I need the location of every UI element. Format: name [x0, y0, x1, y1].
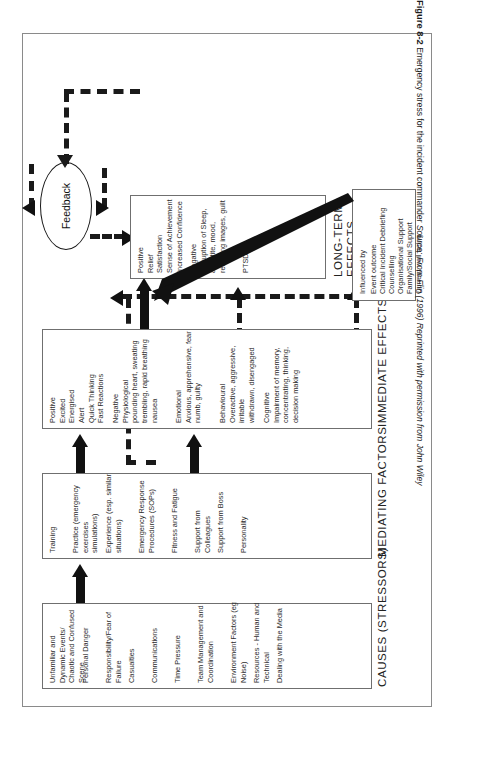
causes-item: Time Pressure: [173, 605, 183, 683]
causes-item: Casualties: [127, 605, 137, 683]
immediate-item: Behavioural Overactive, aggressive, irri…: [218, 327, 257, 423]
feedback-arrowhead-into-ellipse: [57, 155, 73, 168]
figure-caption-text: Emergency stress for the incident comman…: [415, 47, 425, 222]
mediating-item: Training: [48, 473, 58, 553]
immediate-item: Cognitive Impairment of memory, concentr…: [262, 329, 301, 423]
arrow-influenced-to-longterm: [152, 185, 362, 305]
mediating-item: Support from Boss: [216, 473, 226, 553]
mediating-item: Support from Colleagues: [193, 473, 212, 553]
mediating-item: Fitness and Fatigue: [170, 473, 180, 553]
causes-item: Environment Factors (eg Noise): [229, 601, 248, 683]
causes-item: Personal Danger: [81, 605, 91, 683]
causes-item: Dealing with the Media: [275, 601, 285, 683]
feedback-arrowhead-top: [22, 200, 35, 216]
immediate-item: Positive Excited Energised Alert Quick T…: [48, 329, 106, 423]
figure-canvas: Feedback CAUSES (STRESSORS) Unfamiliar a…: [22, 33, 430, 705]
feedback-line-right: [64, 92, 69, 164]
causes-item: Responsibility/Fear of Failure: [104, 605, 123, 683]
mediating-item: Personality: [239, 473, 249, 553]
causes-item: Team Management and Coordination: [196, 605, 215, 683]
stage-box-mediating: Training Practice (emergency exercises s…: [42, 473, 372, 559]
stage-box-causes: Unfamiliar and Dynamic Events/ Chaotic a…: [42, 603, 372, 689]
feedback-branch-longterm-stub: [126, 460, 156, 465]
mediating-item: Experience (esp. similar situations): [104, 473, 123, 553]
immediate-item: Emotional Anxious, apprehensive, fear nu…: [174, 329, 203, 423]
figure-source: Source: From Flin (1996) Reprinted with …: [415, 225, 425, 486]
feedback-line-down-left: [90, 234, 124, 239]
mediating-item: Emergency Response Procedures (SOPs): [137, 473, 156, 553]
feedback-spine-arrowhead: [110, 290, 123, 306]
feedback-label: Feedback: [60, 183, 72, 229]
figure-number: Figure 8-2: [415, 0, 426, 45]
causes-item: Resources - Human and Technical: [252, 601, 271, 683]
feedback-ellipse: Feedback: [40, 162, 92, 250]
stage-box-immediate: Positive Excited Energised Alert Quick T…: [42, 329, 372, 429]
immediate-item: Negative Physiological pounding heart, s…: [111, 329, 159, 423]
causes-item: Communications: [150, 605, 160, 683]
mediating-item: Practice (emergency exercises simulation…: [71, 473, 100, 553]
figure-caption: Figure 8-2 Emergency stress for the inci…: [402, 0, 438, 760]
feedback-line-down-right: [64, 89, 140, 94]
figure-canvas-wrapper: Feedback CAUSES (STRESSORS) Unfamiliar a…: [22, 33, 430, 705]
feedback-arrowhead-bottom: [96, 200, 109, 216]
